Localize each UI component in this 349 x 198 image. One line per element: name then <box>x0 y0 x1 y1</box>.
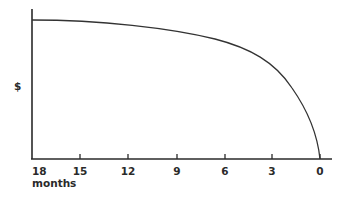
tick-label-3: 3 <box>268 165 275 177</box>
tick-label-12: 12 <box>121 165 136 177</box>
chart: 18 15 12 9 6 3 0 months $ <box>0 0 349 198</box>
x-axis-label: months <box>32 177 76 189</box>
value-curve <box>32 20 320 159</box>
tick-label-15: 15 <box>73 165 88 177</box>
tick-label-0: 0 <box>316 165 323 177</box>
y-axis-label: $ <box>14 80 21 92</box>
tick-label-9: 9 <box>173 165 180 177</box>
tick-label-18: 18 <box>32 165 47 177</box>
tick-label-6: 6 <box>221 165 228 177</box>
